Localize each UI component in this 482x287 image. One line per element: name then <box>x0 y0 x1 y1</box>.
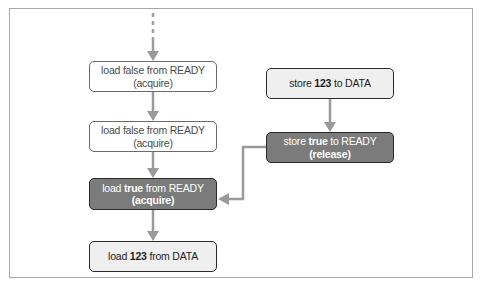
node-text: load <box>108 250 130 262</box>
arrowhead-icon <box>147 231 159 241</box>
node-text: store <box>283 135 308 147</box>
arrowhead-icon <box>218 193 229 205</box>
node-text: to READY <box>328 135 377 147</box>
node-value: 123 <box>130 250 147 262</box>
node-text: load false from READY <box>101 64 205 76</box>
node-order: (acquire) <box>133 77 173 90</box>
node-value: 123 <box>314 77 331 89</box>
node-load-true: load true from READY (acquire) <box>89 178 217 210</box>
node-text: to DATA <box>331 77 370 89</box>
node-value: true <box>124 182 143 194</box>
node-store-true: store true to READY (release) <box>266 132 394 163</box>
node-load-false-1: load false from READY (acquire) <box>89 61 217 92</box>
arrow-r2-l3 <box>228 147 266 199</box>
arrows-layer <box>0 0 482 287</box>
arrowhead-icon <box>147 168 159 178</box>
node-order: (release) <box>309 148 350 161</box>
node-order: (acquire) <box>133 137 173 150</box>
node-load-false-2: load false from READY (acquire) <box>89 121 217 152</box>
node-text: from DATA <box>147 250 198 262</box>
node-store-123: store 123 to DATA <box>266 68 394 99</box>
node-load-123: load 123 from DATA <box>89 241 217 272</box>
node-text: from READY <box>143 182 204 194</box>
arrowhead-icon <box>324 122 336 132</box>
arrowhead-icon <box>147 51 159 61</box>
node-order: (acquire) <box>132 194 175 207</box>
node-text: load false from READY <box>101 124 205 136</box>
node-text: load <box>102 182 124 194</box>
node-text: store <box>289 77 314 89</box>
node-value: true <box>309 135 328 147</box>
arrowhead-icon <box>147 111 159 121</box>
